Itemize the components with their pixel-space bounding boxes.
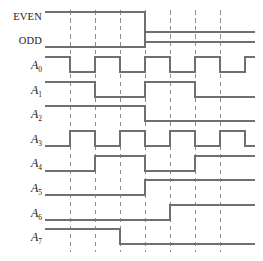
signal-label-even: EVEN bbox=[13, 11, 42, 22]
timing-diagram: EVENODDA0A1A2A3A4A5A6A7 bbox=[0, 0, 263, 261]
timing-diagram-canvas: EVENODDA0A1A2A3A4A5A6A7 bbox=[0, 0, 263, 261]
signal-label-odd: ODD bbox=[19, 35, 43, 46]
